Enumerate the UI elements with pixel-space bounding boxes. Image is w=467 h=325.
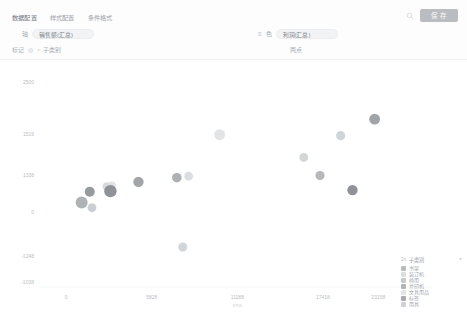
legend-title-prefix: 2n	[401, 257, 406, 262]
field-row-axis: 轴 销售额(汇总)	[22, 28, 94, 39]
legend-swatch	[401, 266, 406, 271]
scatter-point[interactable]	[178, 243, 187, 252]
save-button[interactable]: 保 存	[420, 9, 458, 22]
y-axis-tick-label: 1519	[23, 131, 34, 137]
scatter-points	[76, 114, 380, 252]
field-row-tooltip-label: 两点	[290, 45, 302, 54]
legend-swatch	[401, 302, 406, 307]
x-axis-tick-label: 5828	[146, 294, 157, 300]
collapse-icon[interactable]: ▸	[460, 256, 462, 261]
field-chip-subcategory[interactable]: 子类别	[43, 45, 61, 54]
config-tabs: 数据配置 样式配置 条件格式	[12, 13, 112, 23]
size-icon[interactable]: ▫	[37, 46, 39, 54]
field-chip-profit[interactable]: 利润(汇总)	[276, 29, 338, 39]
chart-legend: 2n 子类别 书架装订机椅用复印机文具用品标签用具 ▸	[401, 256, 463, 307]
scatter-point[interactable]	[315, 171, 324, 180]
shape-icon[interactable]: ◎	[28, 46, 33, 54]
tab-style-config[interactable]: 样式配置	[50, 13, 75, 23]
scatter-plot-canvas[interactable]: 2500151913380-1248-103805828111889755174…	[0, 60, 467, 325]
scatter-point[interactable]	[347, 185, 357, 195]
scatter-point[interactable]	[336, 131, 345, 140]
scatter-point[interactable]	[299, 153, 308, 162]
x-axis-tick-label: 11188	[231, 294, 244, 300]
x-axis-tick-label: 23158	[371, 294, 385, 300]
y-axis-tick-label: -1248	[21, 253, 34, 259]
legend-swatch	[401, 296, 406, 301]
y-axis-tick-label: -1038	[21, 279, 34, 285]
scatter-plot: 2500151913380-1248-103805828111889755174…	[0, 60, 467, 325]
legend-swatch	[401, 290, 406, 295]
field-row-axis-label: 轴	[22, 29, 28, 38]
field-row-marks-label: 标记	[12, 45, 24, 54]
legend-title-text: 子类别	[409, 256, 424, 263]
scatter-point[interactable]	[369, 114, 380, 125]
search-icon[interactable]	[406, 12, 414, 20]
legend-swatch	[401, 284, 406, 289]
scatter-point[interactable]	[88, 203, 97, 212]
scatter-point[interactable]	[133, 177, 143, 187]
y-axis-tick-label: 2500	[23, 79, 34, 85]
field-row-color: ≡ 色 利润(汇总)	[258, 28, 338, 39]
field-row-tooltip: 两点	[290, 44, 302, 55]
tab-conditional-format[interactable]: 条件格式	[88, 13, 113, 23]
scatter-point[interactable]	[172, 173, 182, 183]
y-axis-tick-label: 0	[31, 209, 34, 215]
field-row-color-label: 色	[266, 29, 272, 38]
scatter-point[interactable]	[76, 197, 88, 209]
legend-item-label: 用具	[409, 301, 419, 307]
field-chip-sales[interactable]: 销售额(汇总)	[32, 29, 94, 39]
list-icon[interactable]: ≡	[258, 30, 262, 38]
y-axis-tick-label: 1338	[23, 172, 34, 178]
legend-item-list: 书架装订机椅用复印机文具用品标签用具	[401, 265, 463, 307]
scatter-point[interactable]	[184, 172, 193, 181]
scatter-point[interactable]	[214, 129, 225, 140]
scatter-point[interactable]	[85, 187, 95, 197]
field-row-marks: 标记 ◎ ▫ 子类别	[12, 44, 61, 55]
legend-item[interactable]: 用具	[401, 301, 463, 307]
x-axis-tick-sublabel: 9755	[232, 303, 242, 308]
legend-title: 2n 子类别	[401, 256, 463, 263]
legend-swatch	[401, 272, 406, 277]
x-axis-tick-label: 0	[65, 294, 68, 300]
scatter-point[interactable]	[104, 185, 116, 197]
config-toolbar: 数据配置 样式配置 条件格式 保 存 轴 销售额(汇总) ≡ 色 利润(汇总) …	[0, 0, 467, 60]
tab-data-config[interactable]: 数据配置	[12, 13, 37, 23]
x-axis-tick-label: 17418	[316, 294, 330, 300]
legend-swatch	[401, 278, 406, 283]
chart-app: 数据配置 样式配置 条件格式 保 存 轴 销售额(汇总) ≡ 色 利润(汇总) …	[0, 0, 467, 325]
